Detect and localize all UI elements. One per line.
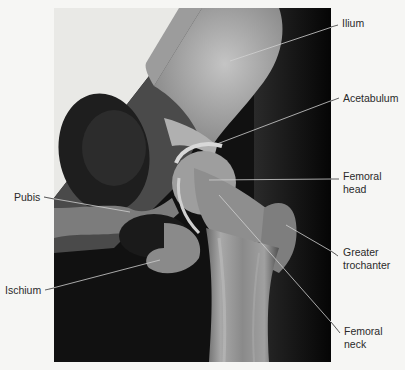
greater-trochanter-leader-tick bbox=[331, 251, 338, 256]
label-acetabulum: Acetabulum bbox=[343, 92, 398, 105]
ilium-leader-tick bbox=[331, 25, 338, 27]
label-femoral-head-line1: Femoral bbox=[343, 170, 382, 183]
xray-illustration bbox=[54, 8, 331, 362]
label-ilium: Ilium bbox=[342, 17, 364, 30]
label-femoral-neck: Femoral neck bbox=[344, 325, 383, 350]
femoral-neck-leader-tick bbox=[331, 322, 340, 333]
ischium-leader-tick bbox=[45, 288, 54, 290]
hip-xray-image bbox=[54, 8, 331, 362]
label-greater-trochanter-line1: Greater bbox=[343, 246, 390, 259]
label-femoral-head-line2: head bbox=[343, 183, 382, 196]
acetabulum-leader-tick bbox=[331, 98, 339, 101]
label-pubis: Pubis bbox=[14, 191, 40, 204]
label-greater-trochanter: Greater trochanter bbox=[343, 246, 390, 271]
label-ischium: Ischium bbox=[5, 284, 41, 297]
label-femoral-neck-line2: neck bbox=[344, 338, 383, 351]
label-femoral-head: Femoral head bbox=[343, 170, 382, 195]
pubis-leader-tick bbox=[44, 197, 54, 199]
label-greater-trochanter-line2: trochanter bbox=[343, 259, 390, 272]
label-femoral-neck-line1: Femoral bbox=[344, 325, 383, 338]
